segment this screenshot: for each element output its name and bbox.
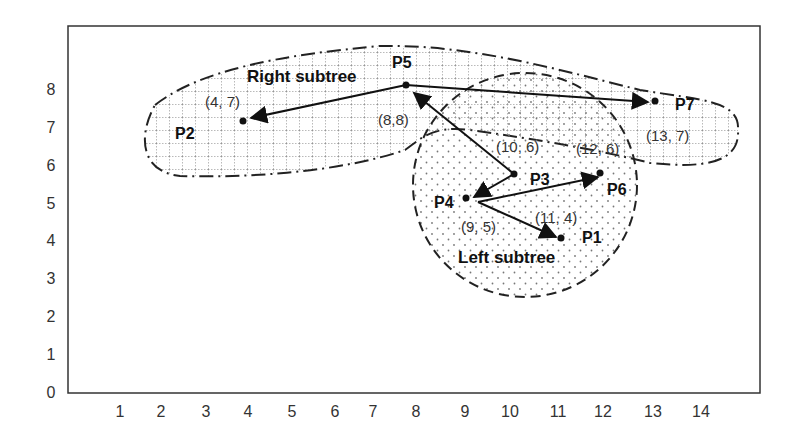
point-p2 (240, 118, 247, 125)
svg-text:3: 3 (47, 270, 56, 287)
svg-text:2: 2 (157, 403, 166, 420)
svg-text:8: 8 (47, 81, 56, 98)
point-p1 (558, 235, 565, 242)
label-p2: P2 (175, 125, 195, 142)
point-p5 (403, 82, 410, 89)
point-p6 (597, 170, 604, 177)
label-p7: P7 (675, 96, 695, 113)
svg-text:5: 5 (47, 195, 56, 212)
svg-text:6: 6 (331, 403, 340, 420)
svg-text:2: 2 (47, 308, 56, 325)
svg-text:4: 4 (244, 403, 253, 420)
y-axis-ticks: 0 1 2 3 4 5 6 7 8 (47, 81, 56, 401)
coord-p5: (8,8) (378, 111, 409, 128)
point-p3 (511, 171, 518, 178)
coord-p7: (13, 7) (646, 127, 689, 144)
svg-text:5: 5 (288, 403, 297, 420)
svg-text:8: 8 (412, 403, 421, 420)
svg-text:7: 7 (47, 119, 56, 136)
label-p3: P3 (530, 171, 550, 188)
svg-text:13: 13 (644, 403, 662, 420)
coord-p1: (11, 4) (535, 209, 577, 226)
coord-p2: (4, 7) (205, 93, 240, 110)
coord-p3: (10, 6) (496, 138, 539, 155)
svg-text:9: 9 (461, 403, 470, 420)
label-p1: P1 (582, 229, 602, 246)
coord-p4: (9, 5) (461, 218, 496, 235)
svg-text:6: 6 (47, 157, 56, 174)
label-p4: P4 (434, 194, 454, 211)
svg-text:7: 7 (369, 403, 378, 420)
point-p4 (463, 195, 470, 202)
svg-text:1: 1 (47, 346, 56, 363)
svg-text:10: 10 (501, 403, 519, 420)
right-subtree-label: Right subtree (247, 67, 357, 86)
left-subtree-label: Left subtree (458, 248, 555, 267)
svg-text:4: 4 (47, 232, 56, 249)
svg-text:3: 3 (202, 403, 211, 420)
label-p5: P5 (392, 54, 412, 71)
svg-text:11: 11 (550, 403, 567, 420)
coord-p6: (12, 6) (576, 140, 619, 157)
svg-text:12: 12 (594, 403, 612, 420)
kd-tree-diagram: P5 P2 P7 P3 P6 P4 P1 (4, 7) (8,8) (10, 6… (0, 0, 798, 439)
svg-text:0: 0 (47, 384, 56, 401)
svg-text:1: 1 (116, 403, 125, 420)
svg-text:14: 14 (692, 403, 710, 420)
x-axis-ticks: 1 2 3 4 5 6 7 8 9 10 11 12 13 14 (116, 403, 710, 420)
label-p6: P6 (607, 181, 627, 198)
point-p7 (652, 98, 659, 105)
